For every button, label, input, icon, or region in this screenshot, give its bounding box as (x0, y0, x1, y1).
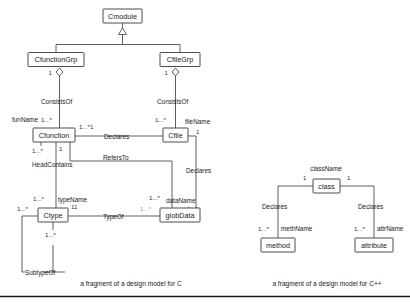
multiplicity-cfunction-one: 1 (59, 145, 63, 152)
class-box-cmodule[interactable]: Cmodule (103, 9, 142, 23)
association-label-subtypeof: SubtypeOf (25, 269, 55, 277)
class-label-cfunctiongrp: CfunctionGrp (35, 55, 77, 64)
multiplicity-method-many: 1...* (258, 225, 270, 232)
role-label-methname: methName (281, 225, 313, 232)
class-box-cfunctiongrp[interactable]: CfunctionGrp (28, 53, 84, 67)
class-label-method: method (266, 241, 290, 250)
class-box-method[interactable]: method (261, 238, 295, 252)
association-declares-function-file: 1...*1 Declares (75, 123, 163, 140)
multiplicity-ctype-many: 1...* (33, 195, 45, 202)
association-declares-method: 1 Declares 1...* methName (258, 174, 313, 239)
association-consistsof-function: 1 ConsistsOf 1...* (41, 68, 72, 128)
multiplicity-cfilegrp-one: 1 (165, 69, 169, 76)
association-label-refersto: RefersTo (103, 154, 129, 161)
association-declares-attribute: 1 Declares 1...* attrName (340, 174, 404, 239)
class-box-cfilegrp[interactable]: CfileGrp (160, 53, 200, 67)
multiplicity-cfile-many: 1...* (155, 116, 167, 123)
uml-canvas: Cmodule CfunctionGrp CfileGrp 1 Consists… (0, 0, 410, 307)
role-label-filename: fileName (185, 118, 211, 125)
multiplicity-cfile-one: 1 (196, 128, 200, 135)
multiplicity-ctype-typeof: 11 (71, 203, 78, 210)
caption-left: a fragment of a design model for C (80, 280, 182, 288)
role-label-funname: funName (12, 116, 38, 123)
class-box-attribute[interactable]: attribute (355, 238, 393, 252)
association-label-consistsof-file: ConsistsOf (157, 98, 188, 105)
role-label-dataname: dataName (166, 197, 196, 204)
association-label-consistsof-function: ConsistsOf (41, 98, 72, 105)
class-label-attribute: attribute (361, 241, 387, 250)
role-label-classname: className (310, 165, 342, 172)
generalization-cmodule (56, 23, 180, 53)
multiplicity-class-left-one: 1 (303, 174, 307, 181)
multiplicity-cfunctiongrp-one: 1 (49, 69, 53, 76)
class-label-globdata: globData (166, 211, 195, 220)
association-label-declares-function-file: Declares (104, 133, 129, 140)
association-label-declares-method: Declares (262, 203, 287, 210)
class-box-ctype[interactable]: Ctype (38, 208, 68, 222)
class-label-cmodule: Cmodule (108, 12, 137, 21)
class-box-class[interactable]: class (313, 179, 340, 193)
multiplicity-globdata-many: 1...* (149, 194, 161, 201)
association-label-declares-attribute: Declares (358, 203, 383, 210)
class-label-cfunction: Cfunction (39, 131, 69, 140)
multiplicity-declares-function-side: 1...*1 (79, 123, 94, 130)
class-box-cfunction[interactable]: Cfunction (33, 128, 75, 142)
role-label-attrname: attrName (377, 225, 404, 232)
multiplicity-ctype-sub-many: 1...* (45, 231, 57, 238)
uml-design-model-figure: Cmodule CfunctionGrp CfileGrp 1 Consists… (0, 0, 410, 307)
multiplicity-headcontains-many: 1...* (32, 147, 44, 154)
class-label-cfilegrp: CfileGrp (167, 55, 193, 64)
association-consistsof-file: 1 ConsistsOf 1...* (155, 68, 188, 128)
caption-right: a fragment of a design model for C++ (272, 280, 381, 288)
class-label-ctype: Ctype (44, 211, 63, 220)
class-box-cfile[interactable]: Cfile (163, 128, 188, 142)
association-label-declares-file-data: Declares (186, 167, 211, 174)
multiplicity-typeof-globdata-many: 1...* (140, 205, 152, 212)
class-label-cfile: Cfile (168, 131, 182, 140)
multiplicity-class-right-one: 1 (347, 174, 351, 181)
association-label-headcontains: HeadContains (32, 161, 73, 168)
class-label-class: class (318, 182, 335, 191)
multiplicity-cfunction-many: 1...* (41, 116, 53, 123)
multiplicity-ctype-left-many: 1...* (17, 205, 29, 212)
multiplicity-attribute-many: 1...* (354, 225, 366, 232)
association-typeof: 11 TypeOf 1...* (68, 203, 160, 221)
association-label-typeof: TypeOf (103, 213, 124, 221)
class-box-globdata[interactable]: globData (160, 208, 200, 222)
